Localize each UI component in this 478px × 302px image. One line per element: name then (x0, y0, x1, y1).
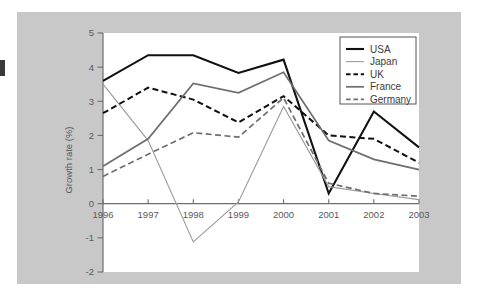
legend-label-france: France (370, 81, 402, 92)
legend-label-japan: Japan (370, 56, 397, 67)
chart-legend: USAJapanUKFranceGermany (340, 37, 416, 105)
y-tick-label: -2 (86, 266, 94, 277)
x-tick-label: 1997 (138, 209, 159, 220)
x-tick-label: 1996 (92, 209, 113, 220)
y-tick-label: 0 (89, 198, 94, 209)
y-tick-label: 3 (89, 96, 94, 107)
x-tick-label: 2002 (363, 209, 384, 220)
y-tick-label: 4 (89, 62, 94, 73)
y-axis-tick-labels: 543210-1-2 (86, 27, 94, 277)
y-axis-title: Growth rate (%) (63, 126, 74, 193)
x-tick-label: 1998 (183, 209, 204, 220)
y-axis-ticks (98, 33, 104, 272)
y-tick-label: -1 (86, 232, 94, 243)
figure-page: 543210-1-2 19961997199819992000200120022… (0, 0, 478, 302)
legend-label-germany: Germany (370, 94, 411, 105)
x-tick-label: 2003 (408, 209, 429, 220)
y-tick-label: 5 (89, 27, 94, 38)
legend-label-usa: USA (370, 44, 391, 55)
x-tick-label: 2001 (318, 209, 339, 220)
growth-rate-line-chart: 543210-1-2 19961997199819992000200120022… (0, 0, 478, 302)
x-tick-label: 1999 (228, 209, 249, 220)
y-tick-label: 2 (89, 130, 94, 141)
x-tick-label: 2000 (273, 209, 294, 220)
legend-label-uk: UK (370, 69, 384, 80)
y-tick-label: 1 (89, 164, 94, 175)
x-axis-tick-labels: 19961997199819992000200120022003 (92, 209, 429, 220)
series-line-germany (103, 98, 419, 196)
